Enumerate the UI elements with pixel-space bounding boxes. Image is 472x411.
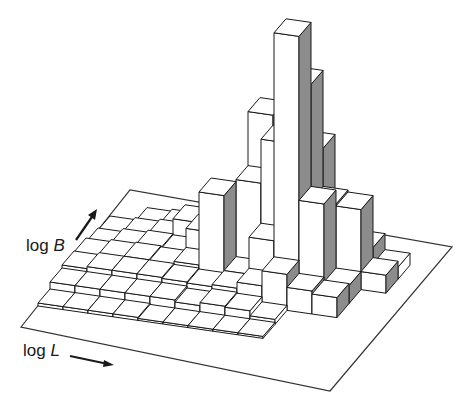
log-b-axis-label: log B bbox=[26, 236, 65, 256]
bar-front-face bbox=[287, 287, 312, 314]
log-l-arrowhead-icon bbox=[103, 360, 114, 367]
bars bbox=[38, 19, 410, 339]
log-b-arrowhead-icon bbox=[88, 209, 97, 220]
log-l-arrow-icon bbox=[70, 356, 108, 364]
histogram-3d bbox=[0, 0, 472, 411]
log-l-axis-label: log L bbox=[23, 341, 60, 361]
